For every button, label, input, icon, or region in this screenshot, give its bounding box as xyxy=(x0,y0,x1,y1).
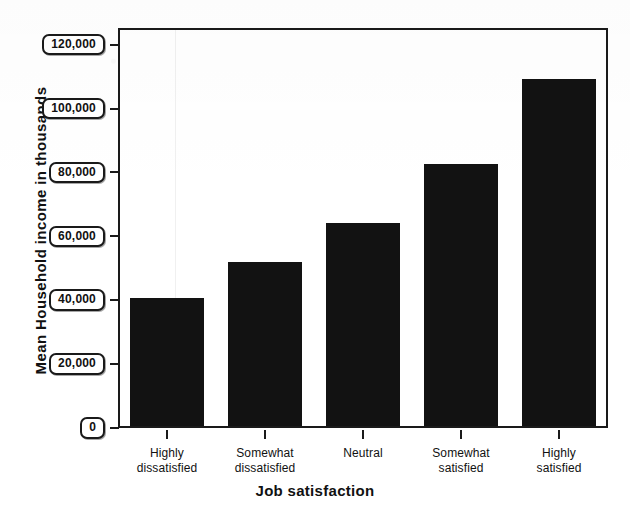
y-axis-tick-label-box: 0 xyxy=(80,417,105,439)
x-axis-tick-mark xyxy=(166,430,168,439)
bar xyxy=(130,298,204,426)
bar xyxy=(522,79,596,426)
x-axis-tick-label: Somewhatdissatisfied xyxy=(216,446,314,476)
y-axis-tick-label: 120,000 xyxy=(0,34,105,56)
bar xyxy=(424,164,498,426)
x-axis-tick-label-line: Neutral xyxy=(314,446,412,461)
y-axis-tick-label-box: 120,000 xyxy=(42,34,105,56)
x-axis-tick-label-line: satisfied xyxy=(412,461,510,476)
y-axis-tick-label: 100,000 xyxy=(0,98,105,120)
x-axis-tick-label-line: Somewhat xyxy=(216,446,314,461)
bar-chart: Mean Household income in thousands 020,0… xyxy=(0,0,630,510)
x-axis-tick-label-line: dissatisfied xyxy=(118,461,216,476)
x-axis-tick-mark xyxy=(264,430,266,439)
bar xyxy=(228,262,302,426)
y-axis-tick-label-box: 100,000 xyxy=(42,98,105,120)
x-axis-tick-mark xyxy=(362,430,364,439)
y-axis-tick-label-box: 40,000 xyxy=(49,289,105,311)
x-axis-tick-label-line: satisfied xyxy=(510,461,608,476)
y-axis-tick-label: 60,000 xyxy=(0,226,105,248)
x-axis-tick-label-line: dissatisfied xyxy=(216,461,314,476)
x-axis-tick-label-line: Highly xyxy=(118,446,216,461)
x-axis-tick-label: Somewhatsatisfied xyxy=(412,446,510,476)
x-axis-tick-label-line: Highly xyxy=(510,446,608,461)
y-axis-tick-label-box: 80,000 xyxy=(49,162,105,184)
y-axis-tick-label: 0 xyxy=(0,417,105,439)
x-axis-tick-label: Neutral xyxy=(314,446,412,461)
x-axis-tick-mark xyxy=(460,430,462,439)
x-axis-title: Job satisfaction xyxy=(0,482,630,499)
y-axis-tick-label-box: 60,000 xyxy=(49,226,105,248)
y-axis-tick-label: 80,000 xyxy=(0,162,105,184)
plot-area xyxy=(118,28,608,428)
x-axis-tick-label-line: Somewhat xyxy=(412,446,510,461)
bar xyxy=(326,223,400,426)
y-axis-tick-label-box: 20,000 xyxy=(49,353,105,375)
y-axis-tick-label: 40,000 xyxy=(0,289,105,311)
x-axis-tick-mark xyxy=(558,430,560,439)
y-axis-tick-label: 20,000 xyxy=(0,353,105,375)
x-axis-tick-label: Highlysatisfied xyxy=(510,446,608,476)
x-axis-tick-label: Highlydissatisfied xyxy=(118,446,216,476)
